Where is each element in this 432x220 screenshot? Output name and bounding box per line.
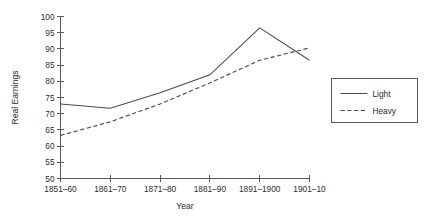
x-tick-label: 1871–80 [144, 184, 177, 194]
chart-canvas: 505560657075808590951001851–601861–70187… [0, 0, 432, 220]
x-axis-title: Year [176, 201, 194, 211]
y-tick-label: 90 [45, 44, 55, 54]
y-axis-title: Real Earnings [10, 71, 20, 125]
y-tick-label: 55 [45, 157, 55, 167]
y-tick-label: 80 [45, 76, 55, 86]
y-tick-label: 75 [45, 93, 55, 103]
y-tick-label: 95 [45, 28, 55, 38]
line-chart: 505560657075808590951001851–601861–70187… [0, 0, 432, 220]
y-tick-label: 100 [41, 12, 55, 22]
y-tick-label: 85 [45, 60, 55, 70]
x-tick-label: 1881–90 [194, 184, 227, 194]
x-tick-label: 1861–70 [94, 184, 127, 194]
y-tick-label: 65 [45, 125, 55, 135]
x-tick-label: 1901–10 [293, 184, 326, 194]
y-tick-label: 70 [45, 109, 55, 119]
series-line-heavy [61, 48, 310, 135]
series-line-light [61, 28, 310, 108]
legend-label-light: Light [373, 89, 392, 99]
x-tick-label: 1891–1900 [239, 184, 281, 194]
y-tick-label: 60 [45, 141, 55, 151]
x-tick-label: 1851–60 [44, 184, 77, 194]
legend-box [332, 79, 418, 123]
legend-label-heavy: Heavy [373, 106, 397, 116]
y-tick-label: 50 [45, 174, 55, 184]
